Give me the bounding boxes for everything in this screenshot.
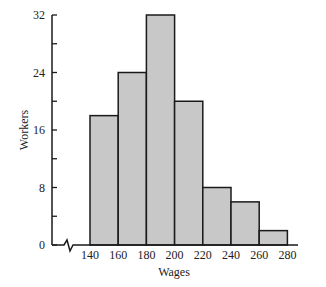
x-tick-label: 280	[278, 248, 296, 262]
y-tick-label: 0	[39, 238, 45, 252]
x-axis-label: Wages	[158, 265, 190, 279]
histogram-bar-140-160	[90, 116, 118, 245]
x-tick-label: 160	[109, 248, 127, 262]
x-tick-label: 200	[166, 248, 184, 262]
x-tick-label: 240	[222, 248, 240, 262]
bars-group	[90, 15, 287, 245]
y-ticks-group: 08162432	[33, 8, 57, 252]
x-tick-label: 180	[137, 248, 155, 262]
histogram-bar-180-200	[146, 15, 174, 245]
x-ticks-group: 140160180200220240260280	[81, 248, 296, 262]
x-tick-label: 220	[194, 248, 212, 262]
histogram-bar-240-260	[231, 202, 259, 245]
histogram-bar-260-280	[259, 231, 287, 245]
y-tick-label: 32	[33, 8, 45, 22]
histogram-bar-160-180	[118, 73, 146, 246]
x-tick-label: 260	[250, 248, 268, 262]
y-axis-label: Workers	[17, 109, 31, 150]
y-tick-label: 16	[33, 123, 45, 137]
y-tick-label: 8	[39, 181, 45, 195]
x-tick-label: 140	[81, 248, 99, 262]
histogram-bar-200-220	[175, 101, 203, 245]
histogram-chart: 08162432 140160180200220240260280 Wages …	[0, 0, 326, 287]
y-tick-label: 24	[33, 66, 45, 80]
histogram-bar-220-240	[203, 188, 231, 246]
